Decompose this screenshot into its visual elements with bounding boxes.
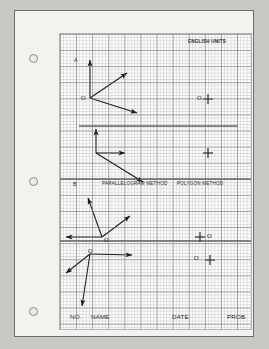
titleblock-field-prob: PROB. [227, 314, 247, 320]
titleblock-field-name: NAME [91, 314, 110, 320]
origin-label-a1: O [81, 95, 86, 101]
vector-a2 [90, 73, 127, 98]
worksheet-drawing [60, 34, 252, 330]
titleblock-field-no: NO. [70, 314, 82, 320]
vector-b2 [102, 216, 130, 237]
vector-b1 [88, 198, 102, 237]
panel-label-a: A [74, 58, 78, 63]
origin-label-b1-target: O [207, 233, 212, 239]
vector-b4 [90, 254, 132, 255]
titleblock-field-date: DATE [172, 314, 189, 320]
vector-b6 [82, 254, 90, 306]
plus-marks [195, 94, 215, 265]
vector-a6 [96, 153, 143, 182]
parallelogram-method-label: PARALLELOGRAM METHOD [102, 182, 167, 187]
origin-label-b2: O [88, 248, 93, 254]
divider-lines [60, 126, 252, 241]
polygon-method-label: POLYGON METHOD [177, 182, 223, 187]
origin-label-b1: O [104, 237, 109, 243]
vector-a3 [90, 98, 137, 113]
punch-hole-top [29, 54, 38, 63]
worksheet-sheet: ENGLISH UNITS A O O B PARALLELOGRAM METH… [14, 10, 254, 337]
origin-label-a1-target: O [197, 95, 202, 101]
panel-label-b: B [73, 182, 77, 187]
graph-paper-area: ENGLISH UNITS A O O B PARALLELOGRAM METH… [59, 33, 252, 330]
origin-label-b2-target: O [194, 255, 199, 261]
panel-a-polygon-vectors [96, 129, 143, 182]
panel-a-parallelogram-vectors [90, 60, 137, 113]
punch-hole-bottom [29, 307, 38, 316]
page-background: ENGLISH UNITS A O O B PARALLELOGRAM METH… [0, 0, 269, 349]
panel-b-polygon-vectors [66, 254, 132, 306]
panel-b-parallelogram-vectors [66, 198, 130, 237]
english-units-label: ENGLISH UNITS [188, 40, 226, 45]
vector-b5 [66, 254, 90, 273]
punch-hole-middle [29, 177, 38, 186]
